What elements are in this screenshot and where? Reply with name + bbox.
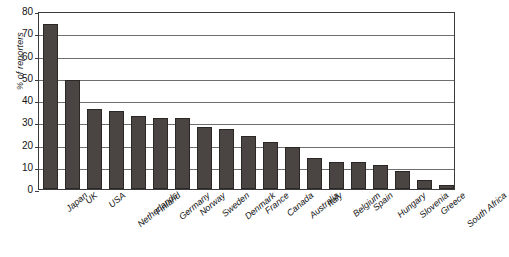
bar — [153, 118, 168, 189]
x-axis-tick-labels: JapanUKUSANetherlandsFinlandGermanyNorwa… — [38, 191, 455, 257]
y-axis-tick-label: 10 — [22, 163, 33, 173]
y-axis-tick-label: 80 — [22, 7, 33, 17]
bar — [307, 158, 322, 189]
y-axis-tick-label: 40 — [22, 96, 33, 106]
bar — [131, 116, 146, 189]
bar — [197, 127, 212, 189]
x-axis-tick-label: Japan — [65, 191, 90, 214]
bar — [417, 180, 432, 189]
bar — [439, 185, 454, 189]
bar — [329, 162, 344, 189]
bar — [285, 147, 300, 189]
y-axis-tick-label: 20 — [22, 141, 33, 151]
plot-area — [38, 12, 455, 190]
bar — [351, 162, 366, 189]
y-axis-tick-label: 30 — [22, 118, 33, 128]
y-axis-tick-label: 50 — [22, 74, 33, 84]
bar — [373, 165, 388, 189]
x-axis-tick-label: USA — [107, 191, 127, 210]
y-axis-tick-label: 60 — [22, 52, 33, 62]
bar — [43, 24, 58, 189]
y-axis-tick-labels: 01020304050607080 — [12, 12, 36, 190]
bar — [87, 109, 102, 189]
bar — [241, 136, 256, 189]
bar — [109, 111, 124, 189]
bar — [175, 118, 190, 189]
y-axis-tick-label: 0 — [27, 185, 33, 195]
y-axis-tick-label: 70 — [22, 29, 33, 39]
bar — [395, 171, 410, 189]
x-axis-tick-label: South Africa — [465, 191, 508, 229]
bar — [263, 142, 278, 189]
bar — [65, 80, 80, 189]
bar-series — [39, 13, 454, 189]
bar — [219, 129, 234, 189]
